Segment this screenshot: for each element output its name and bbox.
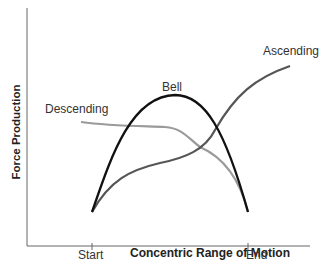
bell-label: Bell [162, 80, 182, 94]
y-axis-label: Force Production [10, 82, 22, 182]
descending-label: Descending [45, 102, 108, 116]
x-tick-start: Start [78, 248, 103, 262]
chart-canvas [0, 0, 324, 264]
descending-curve [81, 122, 248, 212]
ascending-label: Ascending [263, 44, 319, 58]
bell-curve [92, 95, 248, 212]
x-tick-end: End [246, 248, 267, 262]
